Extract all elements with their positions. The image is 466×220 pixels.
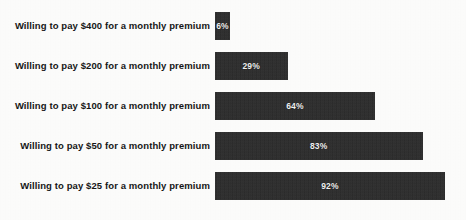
bar-value-label: 6% — [216, 21, 229, 31]
bar: 6% — [215, 12, 230, 40]
bar-row: Willing to pay $100 for a monthly premiu… — [0, 92, 466, 120]
bar-track: 92% — [215, 172, 466, 200]
bar-value-label: 29% — [242, 61, 260, 71]
bar-track: 6% — [215, 12, 466, 40]
bar-value-label: 92% — [321, 181, 339, 191]
category-label: Willing to pay $100 for a monthly premiu… — [0, 101, 215, 111]
bar-row: Willing to pay $50 for a monthly premium… — [0, 132, 466, 160]
horizontal-bar-chart: Willing to pay $400 for a monthly premiu… — [0, 0, 466, 220]
bar: 29% — [215, 52, 288, 80]
bar-value-label: 83% — [310, 141, 328, 151]
category-label: Willing to pay $200 for a monthly premiu… — [0, 61, 215, 71]
bar: 83% — [215, 132, 423, 160]
bar: 92% — [215, 172, 445, 200]
bar-track: 64% — [215, 92, 466, 120]
bar: 64% — [215, 92, 375, 120]
bar-value-label: 64% — [286, 101, 304, 111]
bar-track: 29% — [215, 52, 466, 80]
category-label: Willing to pay $25 for a monthly premium — [0, 181, 215, 191]
bar-row: Willing to pay $25 for a monthly premium… — [0, 172, 466, 200]
category-label: Willing to pay $50 for a monthly premium — [0, 141, 215, 151]
bar-track: 83% — [215, 132, 466, 160]
bar-row: Willing to pay $400 for a monthly premiu… — [0, 12, 466, 40]
category-label: Willing to pay $400 for a monthly premiu… — [0, 21, 215, 31]
bar-row: Willing to pay $200 for a monthly premiu… — [0, 52, 466, 80]
